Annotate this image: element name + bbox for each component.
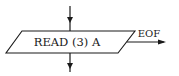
arrowhead-right-icon bbox=[158, 40, 166, 45]
arrowhead-down-icon bbox=[67, 63, 73, 69]
arrowhead-down-icon bbox=[67, 17, 73, 23]
incoming-arrow bbox=[67, 6, 73, 31]
node-label: READ (3) A bbox=[34, 35, 101, 49]
outgoing-arrow bbox=[67, 53, 73, 72]
read-io-node: READ (3) A bbox=[6, 31, 135, 53]
eof-label: EOF bbox=[138, 28, 160, 39]
flowchart-diagram: READ (3) A EOF bbox=[0, 0, 179, 76]
